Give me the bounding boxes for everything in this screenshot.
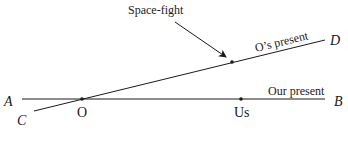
label-c: C [17, 113, 27, 128]
space-fight-dot [230, 60, 234, 64]
os-present-line [34, 40, 325, 111]
label-a: A [3, 94, 13, 109]
space-fight-label: Space-fight [128, 3, 184, 17]
label-o: O [77, 105, 87, 120]
our-present-label: Our present [268, 84, 325, 98]
label-b: B [334, 94, 343, 109]
point-o-dot [80, 97, 84, 101]
space-fight-arrow [175, 22, 226, 57]
label-d: D [329, 33, 340, 48]
label-us: Us [234, 105, 250, 120]
point-us-dot [239, 97, 243, 101]
spacetime-diagram: Space-fight O’s present Our present A B … [0, 0, 348, 142]
